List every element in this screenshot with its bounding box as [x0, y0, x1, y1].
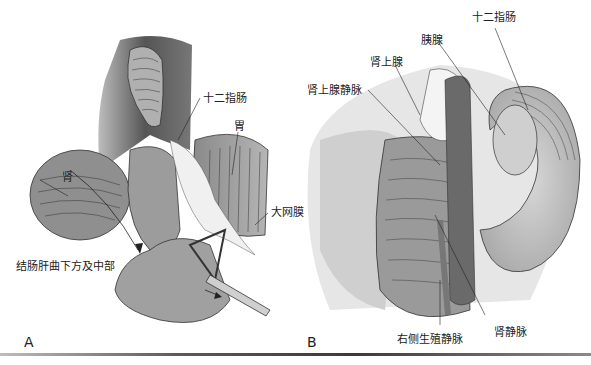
- panel-label-b: B: [307, 334, 317, 350]
- panel-label-a: A: [24, 334, 34, 350]
- bottom-divider: [0, 353, 591, 356]
- label-duodenum-b: 十二指肠: [472, 12, 516, 24]
- label-stomach: 胃: [234, 121, 245, 133]
- label-hepatic-flexure: 结肠肝曲下方及中部: [16, 261, 115, 273]
- panel-a: 十二指肠 胃 肾 大网膜 结肠肝曲下方及中部 A: [0, 0, 300, 340]
- label-adrenal-vein: 肾上腺静脉: [307, 85, 362, 97]
- panel-b-illustration: [290, 0, 591, 340]
- label-adrenal-gland: 肾上腺: [370, 57, 403, 69]
- panel-b: 十二指肠 胰腺 肾上腺 肾上腺静脉 肾静脉 右侧生殖静脉 B: [290, 0, 591, 340]
- label-right-gonadal-vein: 右侧生殖静脉: [397, 334, 463, 346]
- label-renal-vein: 肾静脉: [494, 327, 527, 339]
- label-duodenum-a: 十二指肠: [203, 93, 247, 105]
- panel-a-illustration: [0, 0, 300, 340]
- label-kidney: 肾: [62, 172, 73, 184]
- label-pancreas: 胰腺: [421, 35, 443, 47]
